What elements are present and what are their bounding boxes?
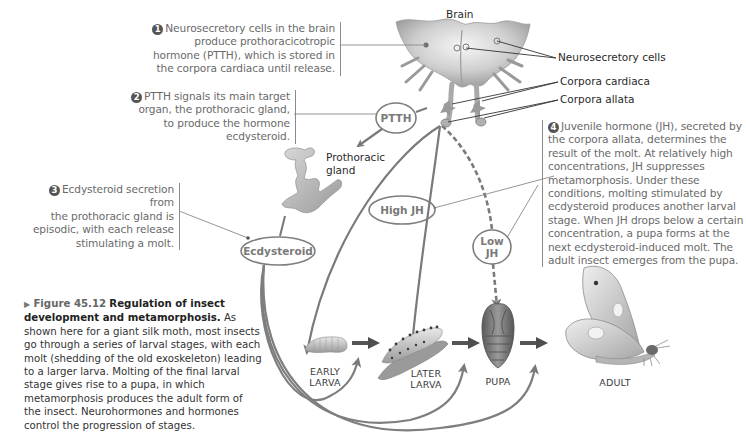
ptth-oval-label: PTTH xyxy=(376,112,416,124)
callout-4-line-10: next ecdysteroid-induced molt. The xyxy=(548,241,746,254)
later-larva-label: LATER LARVA xyxy=(403,368,449,390)
callout-2-ptth-signals: 2PTTH signals its main target organ, the… xyxy=(130,90,296,144)
brain-label: Brain xyxy=(446,8,474,21)
callout-3-ecdysteroid-secretion: 3Ecdysteroid secretion from the prothora… xyxy=(24,183,180,250)
ecdysteroid-oval-label: Ecdysteroid xyxy=(241,245,315,257)
neurosecretory-cells-label: Neurosecretory cells xyxy=(558,51,666,64)
step-number-3-icon: 3 xyxy=(49,185,60,196)
callout-4-line-4: concentrations, JH suppresses xyxy=(548,160,746,173)
early-larva-label: EARLY LARVA xyxy=(302,366,348,388)
callout-2-line-3: to produce the hormone xyxy=(130,117,290,130)
callout-4-juvenile-hormone: 4Juvenile hormone (JH), secreted by the … xyxy=(542,120,746,267)
pupa-illustration xyxy=(482,304,514,368)
callout-4-line-11: adult insect emerges from the pupa. xyxy=(548,254,746,267)
callout-1-line-2: produce prothoracicotropic xyxy=(152,35,335,48)
high-jh-oval-label: High JH xyxy=(369,204,435,216)
callout-4-line-7: ecdysteroid produces another larval xyxy=(548,200,746,213)
callout-4-line-2: the corpora allata, determines the xyxy=(548,133,746,146)
figure-number: Figure 45.12 xyxy=(33,298,106,309)
callout-4-line-9: concentration, a pupa forms at the xyxy=(548,227,746,240)
callout-3-line-3: episodic, with each release xyxy=(24,223,174,236)
figure-marker-icon: ▶ xyxy=(24,300,30,309)
corpora-allata-label: Corpora allata xyxy=(560,93,635,106)
callout-1-line-4: the corpora cardiaca until release. xyxy=(152,62,335,75)
callout-3-line-4: stimulating a molt. xyxy=(24,237,174,250)
low-jh-oval-label: Low JH xyxy=(473,235,511,259)
callout-4-line-3: result of the molt. At relatively high xyxy=(548,147,746,160)
callout-4-line-8: stage. When JH drops below a certain xyxy=(548,214,746,227)
callout-4-line-5: metamorphosis. Under these xyxy=(548,174,746,187)
callout-2-line-2: organ, the prothoracic gland, xyxy=(130,103,290,116)
callout-1-neurosecretory-cells: 1Neurosecretory cells in the brain produ… xyxy=(152,22,341,76)
figure-caption: ▶ Figure 45.12 Regulation of insect deve… xyxy=(24,297,262,432)
adult-label: ADULT xyxy=(590,377,640,388)
early-larva-illustration xyxy=(305,337,347,353)
callout-4-line-6: conditions, molting stimulated by xyxy=(548,187,746,200)
corpora-cardiaca-label: Corpora cardiaca xyxy=(560,75,650,88)
callout-1-line-1: 1Neurosecretory cells in the brain xyxy=(152,22,335,35)
callout-3-line-1: 3Ecdysteroid secretion from xyxy=(24,183,174,210)
callout-4-line-1: 4Juvenile hormone (JH), secreted by xyxy=(548,120,746,133)
callout-2-line-1: 2PTTH signals its main target xyxy=(130,90,290,103)
step-number-1-icon: 1 xyxy=(152,24,163,35)
figure-caption-text: As shown here for a giant silk moth, mos… xyxy=(24,312,262,430)
callout-2-line-4: ecdysteroid. xyxy=(130,130,290,143)
pupa-label: PUPA xyxy=(478,376,518,387)
step-number-4-icon: 4 xyxy=(548,122,559,133)
callout-3-line-2: the prothoracic gland is xyxy=(24,210,174,223)
brain-illustration xyxy=(396,19,530,127)
adult-moth-illustration xyxy=(566,266,670,366)
callout-1-line-3: hormone (PTTH), which is stored in xyxy=(152,49,335,62)
prothoracic-gland-label: Prothoracic gland xyxy=(326,151,385,176)
step-number-2-icon: 2 xyxy=(131,92,142,103)
